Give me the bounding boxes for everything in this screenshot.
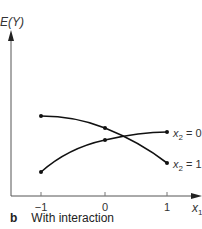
y-axis-arrow-icon	[8, 30, 14, 41]
caption-text: With interaction	[31, 211, 114, 225]
series-label-x2-0: x2 = 0	[172, 127, 202, 142]
series-x2-1-point	[165, 161, 169, 165]
x-axis-arrow-icon	[191, 193, 202, 199]
series-x2-0-point	[103, 138, 107, 142]
series-x2-0-point	[39, 170, 43, 174]
x-tick-label-1: 1	[164, 201, 170, 213]
series-x2-0-point	[165, 130, 169, 134]
interaction-chart: −1 0 1 x1 E(Y) x2 = 0 x2 = 1	[0, 0, 202, 229]
x-axis-label: x1	[191, 201, 202, 217]
caption-letter: b	[10, 211, 17, 225]
series-label-x2-1: x2 = 1	[172, 158, 202, 173]
y-axis-label: E(Y)	[0, 15, 24, 29]
series-x2-1-point	[39, 114, 43, 118]
figure-caption: bWith interaction	[10, 211, 114, 225]
series-x2-1-point	[103, 126, 107, 130]
series-x2-0-line	[41, 132, 167, 172]
